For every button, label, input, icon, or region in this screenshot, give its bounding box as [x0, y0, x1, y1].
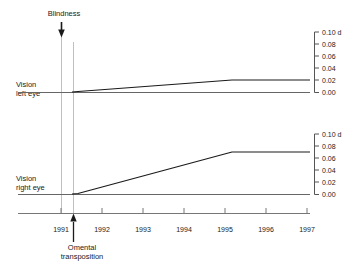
chart-vector-overlay [0, 0, 357, 274]
y-axis-left-eye [315, 32, 320, 93]
vision-acuity-chart: Blindness Vision left eye Vision right e… [0, 0, 357, 274]
curve-left-eye [72, 80, 310, 92]
y-axis-right-eye [315, 134, 320, 195]
omental-transposition-arrow-icon [70, 214, 76, 243]
blindness-arrow-icon [58, 22, 65, 38]
curve-right-eye [72, 152, 310, 194]
